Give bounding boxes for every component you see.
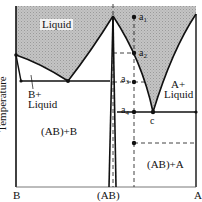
point-right-eutectic-end xyxy=(194,110,197,113)
region-label-a-liquid-2: Liquid xyxy=(164,89,193,100)
point-a1 xyxy=(132,15,136,19)
x-tick-a: A xyxy=(194,190,202,201)
point-c xyxy=(151,110,155,114)
point-label-c: c xyxy=(150,115,154,126)
ab-compound-left xyxy=(109,16,113,187)
region-label-b-liquid-2: Liquid xyxy=(28,99,57,110)
x-tick-b: B xyxy=(13,190,20,201)
point-lower xyxy=(132,141,136,145)
region-label-liquid: Liquid xyxy=(40,19,73,30)
region-label-ab-a: (AB)+A xyxy=(147,159,184,170)
point-b-melt xyxy=(14,53,18,57)
point-label-a2: a2 xyxy=(139,47,147,62)
b-liquid-pointer xyxy=(31,75,33,89)
x-tick-ab: (AB) xyxy=(97,190,120,201)
y-axis-label: Temperature xyxy=(0,76,8,131)
point-label-a1: a1 xyxy=(139,11,147,26)
point-left-eutectic xyxy=(66,79,70,83)
point-a4 xyxy=(132,110,136,114)
ab-compound-right xyxy=(113,16,116,187)
region-label-ab-b: (AB)+B xyxy=(41,126,77,137)
point-a3 xyxy=(132,80,136,84)
point-a2 xyxy=(132,51,136,55)
point-left-eutectic-end xyxy=(19,79,22,82)
point-label-a3: a3 xyxy=(121,73,129,88)
point-label-a4: a4 xyxy=(121,104,129,119)
